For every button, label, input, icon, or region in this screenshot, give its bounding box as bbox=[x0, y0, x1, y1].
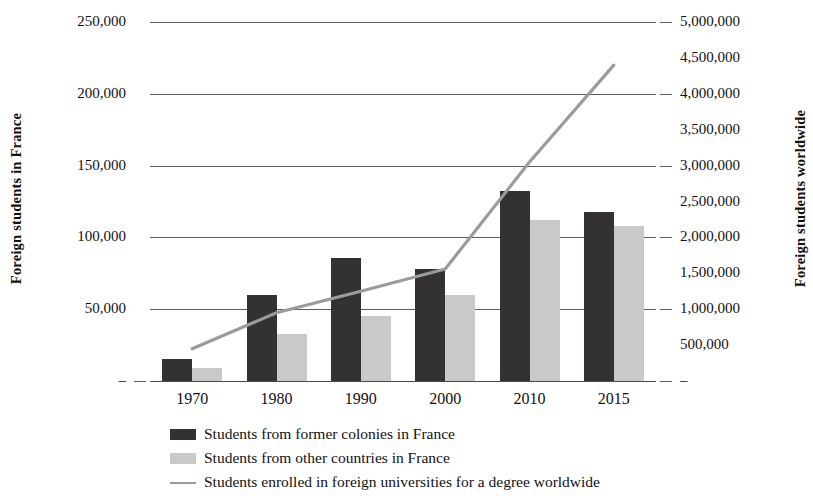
left-tick-label: 50,000 bbox=[0, 301, 126, 316]
right-tick-label: 4,000,000 bbox=[680, 86, 790, 101]
left-tick-label: 150,000 bbox=[0, 158, 126, 173]
right-tick-label: 2,000,000 bbox=[680, 229, 790, 244]
right-tick-label: 1,500,000 bbox=[680, 265, 790, 280]
right-tick-label: 3,000,000 bbox=[680, 158, 790, 173]
legend-item-label: Students enrolled in foreign universitie… bbox=[204, 473, 600, 491]
x-tick-label: 1990 bbox=[321, 390, 401, 408]
right-axis-tickmark bbox=[660, 309, 672, 310]
chart-legend: Students from former colonies in FranceS… bbox=[170, 422, 810, 494]
right-axis-tickmark bbox=[660, 237, 672, 238]
axis-baseline bbox=[150, 381, 656, 382]
right-axis-tickmark bbox=[660, 381, 672, 382]
left-tick-label: 250,000 bbox=[0, 14, 126, 29]
right-axis-tickmark bbox=[660, 22, 672, 23]
legend-item: Students from other countries in France bbox=[170, 446, 810, 470]
right-tick-label: – bbox=[680, 373, 790, 388]
chart-figure: Foreign students in France Foreign stude… bbox=[0, 0, 813, 499]
legend-dark-square-icon bbox=[170, 429, 196, 440]
right-tick-label: 500,000 bbox=[680, 337, 790, 352]
left-axis-title: Foreign students in France bbox=[8, 99, 25, 299]
legend-item-label: Students from other countries in France bbox=[204, 449, 450, 467]
x-tick-label: 2000 bbox=[405, 390, 485, 408]
legend-item-label: Students from former colonies in France bbox=[204, 425, 455, 443]
x-tick-label: 2010 bbox=[490, 390, 570, 408]
x-tick-label: 1980 bbox=[237, 390, 317, 408]
line-series-layer bbox=[150, 22, 656, 381]
right-axis-title: Foreign students worldwide bbox=[792, 99, 809, 299]
plot-area bbox=[150, 22, 656, 381]
right-tick-label: 1,000,000 bbox=[680, 301, 790, 316]
legend-light-square-icon bbox=[170, 453, 196, 464]
left-axis-tickmark bbox=[134, 381, 146, 382]
x-tick-label: 1970 bbox=[152, 390, 232, 408]
legend-item: Students enrolled in foreign universitie… bbox=[170, 470, 810, 494]
right-axis-tickmark bbox=[660, 166, 672, 167]
right-axis-tickmark bbox=[660, 94, 672, 95]
legend-gray-line-icon bbox=[170, 477, 196, 488]
left-tick-label: 200,000 bbox=[0, 86, 126, 101]
right-tick-label: 4,500,000 bbox=[680, 50, 790, 65]
right-tick-label: 3,500,000 bbox=[680, 122, 790, 137]
legend-item: Students from former colonies in France bbox=[170, 422, 810, 446]
line-series-worldwide bbox=[192, 65, 614, 349]
left-tick-label: – bbox=[0, 373, 126, 388]
x-tick-label: 2015 bbox=[574, 390, 654, 408]
left-tick-label: 100,000 bbox=[0, 229, 126, 244]
right-tick-label: 2,500,000 bbox=[680, 194, 790, 209]
right-tick-label: 5,000,000 bbox=[680, 14, 790, 29]
